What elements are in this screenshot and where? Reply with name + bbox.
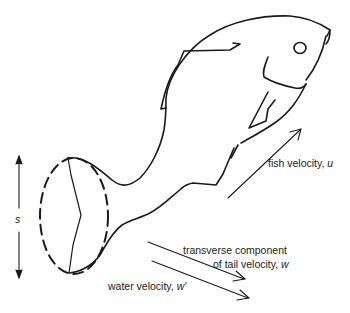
water-velocity-text: water velocity, (108, 280, 177, 292)
pectoral-fin (249, 92, 275, 128)
water-velocity-symbol: w' (177, 280, 187, 292)
fish-velocity-text: fish velocity, (268, 157, 327, 169)
fish-jaw (306, 36, 326, 80)
fish-lower-body (69, 188, 182, 273)
tail-fin (68, 158, 81, 273)
fish-velocity-symbol: u (327, 157, 333, 169)
transverse-label-line1: transverse component (183, 245, 287, 256)
fish-eye (294, 43, 306, 54)
fish-velocity-label: fish velocity, u (268, 158, 333, 169)
tail-sweep-ellipse (40, 158, 108, 274)
tail-span-arrowhead-up (16, 156, 22, 164)
water-velocity-label: water velocity, w' (108, 281, 186, 292)
transverse-text: of tail velocity, (213, 258, 281, 270)
gill-cover (263, 57, 306, 88)
transverse-symbol: w (281, 258, 289, 270)
tail-span-arrowhead-down (16, 270, 22, 278)
span-label: s (15, 214, 20, 225)
pelvic-fin (182, 148, 234, 188)
transverse-label-line2: of tail velocity, w (213, 259, 289, 270)
